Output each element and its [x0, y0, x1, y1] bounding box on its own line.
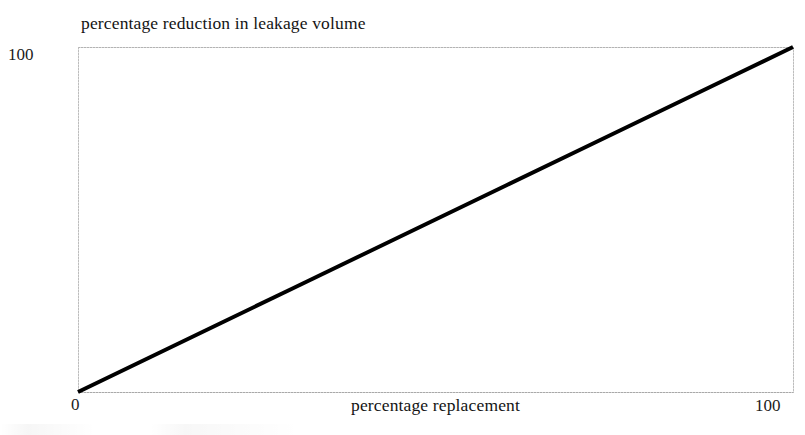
scan-artifact [0, 424, 805, 435]
series-line-1 [78, 47, 793, 392]
chart-figure: percentage reduction in leakage volume 1… [0, 0, 805, 435]
y-axis-tick-label-100: 100 [8, 45, 34, 65]
x-axis-title: percentage replacement [78, 395, 793, 416]
data-series-layer [0, 0, 805, 435]
